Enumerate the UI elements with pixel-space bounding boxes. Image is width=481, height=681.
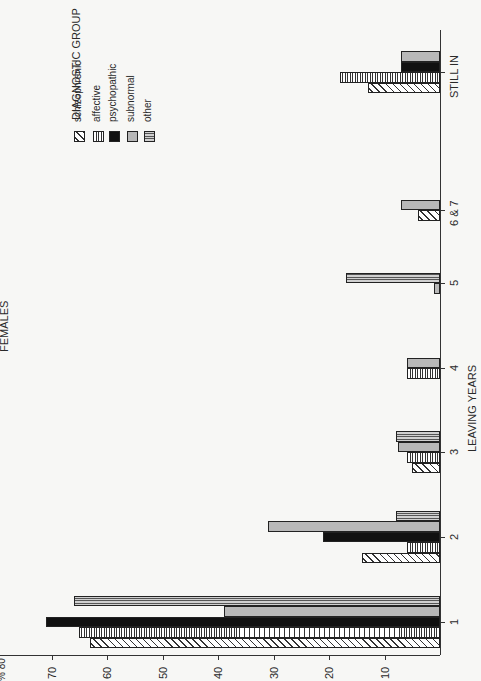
- category-label: 4: [448, 365, 460, 371]
- value-tick-label: 60: [101, 667, 113, 679]
- value-axis-line: [0, 655, 440, 656]
- bar-affective: [407, 368, 440, 379]
- bar-affective: [407, 452, 440, 463]
- value-tick: [107, 655, 108, 660]
- bar-other: [396, 511, 440, 522]
- bar-other: [396, 431, 440, 442]
- legend-title: DIAGNOSTIC GROUP: [70, 8, 82, 120]
- value-tick-label: 50: [157, 667, 169, 679]
- x-axis-label: LEAVING YEARS: [466, 365, 478, 452]
- value-tick-label: 70: [46, 667, 58, 679]
- bar-schizophrenic: [362, 553, 440, 564]
- bar-subnormal: [434, 283, 440, 294]
- bar-other: [346, 273, 440, 284]
- value-tick-label: 40: [212, 667, 224, 679]
- category-label: 5: [448, 280, 460, 286]
- legend-swatch-other: [144, 131, 155, 142]
- chart-title: FEMALES: [0, 301, 10, 352]
- category-tick: [440, 72, 445, 73]
- category-label: 1: [448, 619, 460, 625]
- bar-psychopathic: [323, 532, 440, 543]
- bar-subnormal: [401, 51, 440, 62]
- value-tick: [163, 655, 164, 660]
- category-axis-line: [440, 30, 441, 655]
- bar-other: [74, 596, 440, 607]
- bar-subnormal: [224, 606, 440, 617]
- bar-affective: [407, 542, 440, 553]
- y-axis-unit-label: % 80: [0, 658, 7, 681]
- category-tick: [440, 622, 445, 623]
- bar-schizophrenic: [412, 463, 440, 474]
- bar-subnormal: [268, 521, 440, 532]
- value-tick: [329, 655, 330, 660]
- value-tick: [52, 655, 53, 660]
- category-label: 6 & 7: [448, 200, 460, 226]
- category-tick: [440, 210, 445, 211]
- legend-swatch-affective: [93, 131, 104, 142]
- category-tick: [440, 283, 445, 284]
- legend-swatch-psychopathic: [109, 131, 120, 142]
- value-tick-label: 30: [268, 667, 280, 679]
- category-label: 3: [448, 449, 460, 455]
- legend-label-affective: affective: [91, 85, 102, 122]
- legend-label-other: other: [142, 99, 153, 122]
- category-label: STILL IN: [448, 55, 460, 98]
- bar-subnormal: [407, 358, 440, 369]
- bar-psychopathic: [401, 62, 440, 73]
- legend-label-subnormal: subnormal: [125, 75, 136, 122]
- bar-schizophrenic: [368, 83, 440, 94]
- value-tick-label: 10: [379, 667, 391, 679]
- category-tick: [440, 368, 445, 369]
- value-tick: [218, 655, 219, 660]
- value-tick: [274, 655, 275, 660]
- legend-swatch-subnormal: [127, 131, 138, 142]
- category-tick: [440, 452, 445, 453]
- value-tick-label: 20: [323, 667, 335, 679]
- legend-label-psychopathic: psychopathic: [107, 64, 118, 122]
- bar-affective: [340, 72, 440, 83]
- bar-affective: [79, 627, 440, 638]
- bar-schizophrenic: [90, 638, 440, 649]
- category-tick: [440, 537, 445, 538]
- legend-swatch-schizophrenic: [74, 131, 85, 142]
- bar-schizophrenic: [418, 210, 440, 221]
- category-label: 2: [448, 534, 460, 540]
- value-tick: [385, 655, 386, 660]
- bar-psychopathic: [46, 617, 440, 628]
- bar-subnormal: [401, 200, 440, 211]
- bar-subnormal: [398, 442, 440, 453]
